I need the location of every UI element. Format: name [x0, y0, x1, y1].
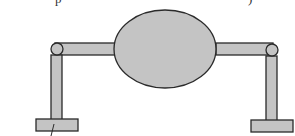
left-vertical-leg — [51, 55, 62, 120]
right-horizontal-bar — [216, 43, 273, 55]
central-ellipse-body — [114, 10, 216, 88]
right-vertical-leg — [266, 56, 277, 121]
left-horizontal-bar — [55, 43, 115, 55]
right-base-plate — [251, 120, 293, 132]
mechanism-diagram — [0, 0, 295, 136]
right-pin-joint-icon — [266, 44, 278, 56]
left-pin-joint-icon — [51, 43, 63, 55]
left-base-plate — [36, 119, 78, 131]
